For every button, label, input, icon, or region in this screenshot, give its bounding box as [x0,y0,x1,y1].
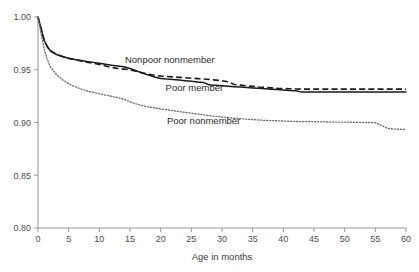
series-label-nonpoor-nonmember: Nonpoor nonmember [125,54,215,65]
series-label-poor-nonmember: Poor nonmember [167,115,240,126]
x-tick-label: 60 [401,234,411,244]
y-tick-label: 0.80 [13,223,31,233]
x-tick-label: 5 [66,234,71,244]
x-tick-label: 20 [156,234,166,244]
x-tick-label: 55 [370,234,380,244]
y-tick-label: 0.85 [13,171,31,181]
x-tick-label: 0 [35,234,40,244]
y-tick-label: 1.00 [13,12,31,22]
series-label-poor-member: Poor member [166,82,224,93]
y-tick-label: 0.90 [13,118,31,128]
y-tick-label: 0.95 [13,65,31,75]
axis-title: Age in months [192,251,253,262]
axes: 0.800.850.900.951.0005101520253035404550… [13,12,411,244]
x-tick-label: 25 [186,234,196,244]
curve-nonpoor-nonmember [38,17,406,89]
x-tick-label: 50 [340,234,350,244]
x-tick-label: 40 [278,234,288,244]
x-tick-label: 35 [248,234,258,244]
x-tick-label: 30 [217,234,227,244]
x-tick-label: 10 [94,234,104,244]
curve-poor-nonmember [38,17,406,129]
chart-figure: 0.800.850.900.951.0005101520253035404550… [0,0,419,272]
x-tick-label: 15 [125,234,135,244]
x-tick-label: 45 [309,234,319,244]
series-labels: Nonpoor nonmemberPoor memberPoor nonmemb… [125,54,240,126]
curves [38,17,406,129]
survival-chart: 0.800.850.900.951.0005101520253035404550… [0,0,419,272]
x-axis-title: Age in months [192,251,253,262]
